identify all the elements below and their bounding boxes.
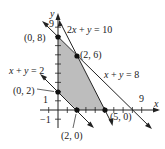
y-axis-arrow-icon [56, 13, 61, 20]
leader-0-2 [37, 89, 54, 92]
x-tick-9-label: 9 [139, 93, 144, 104]
vertex-2-0 [74, 107, 79, 112]
graph: y 9 x 9 1 −1 2x + y = 10 x + y = 8 x + y… [0, 0, 165, 149]
vertex-5-0 [102, 107, 107, 112]
vertex-0-8 [55, 34, 60, 39]
vertex-2-6 [74, 53, 79, 58]
y-tick-neg1-label: −1 [40, 114, 51, 125]
x-axis-label: x [153, 98, 159, 109]
vertex-label-5-0: (5, 0) [110, 111, 132, 123]
vertex-label-0-8: (0, 8) [24, 32, 46, 44]
vertex-label-2-6: (2, 6) [80, 49, 102, 61]
label-x-plus-y-eq-2: x + y = 2 [8, 65, 44, 76]
y-tick-1-label: 1 [43, 94, 48, 105]
vertex-0-2 [55, 89, 60, 94]
label-x-plus-y-eq-8: x + y = 8 [103, 69, 139, 80]
leader-2-0 [73, 114, 76, 128]
label-2x-plus-y-eq-10: 2x + y = 10 [67, 24, 112, 35]
y-tick-9-label: 9 [49, 18, 54, 29]
vertex-label-2-0: (2, 0) [61, 130, 83, 142]
vertex-label-0-2: (0, 2) [13, 85, 35, 97]
